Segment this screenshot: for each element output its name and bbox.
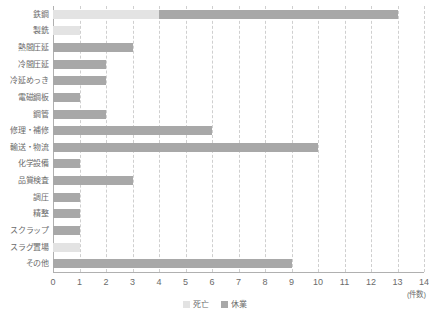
bar-segment (53, 209, 80, 218)
category-label: 化学設備 (0, 159, 49, 168)
x-axis-unit-label: (件数) (407, 290, 426, 300)
legend-label: 休業 (231, 300, 247, 309)
bar-stack (53, 255, 292, 272)
x-tick-label: 8 (262, 276, 267, 288)
bar-segment (53, 126, 212, 135)
category-label: 熱間圧延 (0, 43, 49, 52)
x-tick-label: 13 (392, 276, 402, 288)
bar-row (53, 122, 424, 139)
bar-segment (53, 193, 80, 202)
category-label: 冷間圧延 (0, 60, 49, 69)
x-tick-label: 11 (340, 276, 349, 288)
category-label: 電磁鋼板 (0, 93, 49, 102)
x-tick-label: 2 (103, 276, 108, 288)
x-axis-tick-labels: 01234567891011121314 (53, 276, 424, 290)
legend-swatch (183, 301, 190, 308)
gridline-14 (424, 6, 425, 272)
bar-stack (53, 139, 318, 156)
bar-row (53, 206, 424, 223)
legend-swatch (221, 301, 228, 308)
chart-legend: 死亡休業 (0, 300, 429, 309)
category-label: 精整 (0, 209, 49, 218)
bar-segment (53, 259, 292, 268)
bar-stack (53, 206, 80, 223)
bar-row (53, 106, 424, 123)
bar-row (53, 139, 424, 156)
bar-row (53, 189, 424, 206)
bar-row (53, 39, 424, 56)
legend-item[interactable]: 死亡 (183, 300, 209, 309)
x-tick-label: 4 (156, 276, 161, 288)
category-label: 製銑 (0, 26, 49, 35)
bar-segment (159, 10, 398, 19)
bar-segment (53, 243, 80, 252)
x-tick-label: 1 (77, 276, 82, 288)
plot-area (53, 6, 424, 272)
bar-stack (53, 239, 80, 256)
category-axis-labels: 鉄鋼製銑熱間圧延冷間圧延冷延めっき電磁鋼板鋼管修理・補修輸送・物流化学設備品質検… (0, 6, 49, 272)
category-label: 輸送・物流 (0, 143, 49, 152)
bar-stack (53, 23, 80, 40)
x-tick-label: 12 (366, 276, 376, 288)
bar-segment (53, 60, 106, 69)
bar-stack (53, 122, 212, 139)
bar-row (53, 23, 424, 40)
bar-row (53, 89, 424, 106)
category-label: スクラップ (0, 226, 49, 235)
bar-row (53, 73, 424, 90)
category-label: その他 (0, 259, 49, 268)
bar-segment (53, 143, 318, 152)
bar-segment (53, 226, 80, 235)
bar-row (53, 172, 424, 189)
category-label: 修理・補修 (0, 126, 49, 135)
bar-chart: 鉄鋼製銑熱間圧延冷間圧延冷延めっき電磁鋼板鋼管修理・補修輸送・物流化学設備品質検… (0, 0, 429, 317)
bar-segment (53, 26, 80, 35)
x-tick-label: 7 (236, 276, 241, 288)
bar-stack (53, 189, 80, 206)
x-axis-line (53, 272, 424, 273)
bar-stack (53, 222, 80, 239)
bar-row (53, 255, 424, 272)
bar-stack (53, 172, 133, 189)
bar-row (53, 239, 424, 256)
x-tick-label: 14 (419, 276, 429, 288)
bar-segment (53, 93, 80, 102)
bar-row (53, 56, 424, 73)
x-tick-label: 5 (183, 276, 188, 288)
bar-segment (53, 159, 80, 168)
category-label: スラグ置場 (0, 243, 49, 252)
bar-row (53, 222, 424, 239)
bar-stack (53, 89, 80, 106)
bar-stack (53, 73, 106, 90)
bar-stack (53, 39, 133, 56)
bar-stack (53, 106, 106, 123)
x-tick-label: 9 (289, 276, 294, 288)
bar-stack (53, 56, 106, 73)
category-label: 調圧 (0, 193, 49, 202)
bar-rows (53, 6, 424, 272)
bar-stack (53, 6, 398, 23)
x-tick-label: 6 (209, 276, 214, 288)
x-tick-label: 10 (313, 276, 323, 288)
bar-row (53, 6, 424, 23)
legend-label: 死亡 (193, 300, 209, 309)
legend-item[interactable]: 休業 (221, 300, 247, 309)
bar-stack (53, 156, 80, 173)
x-tick-label: 3 (130, 276, 135, 288)
category-label: 品質検査 (0, 176, 49, 185)
category-label: 鉄鋼 (0, 10, 49, 19)
bar-segment (53, 43, 133, 52)
bar-segment (53, 110, 106, 119)
category-label: 冷延めっき (0, 76, 49, 85)
x-tick-label: 0 (50, 276, 55, 288)
bar-row (53, 156, 424, 173)
category-label: 鋼管 (0, 110, 49, 119)
bar-segment (53, 10, 159, 19)
bar-segment (53, 76, 106, 85)
bar-segment (53, 176, 133, 185)
